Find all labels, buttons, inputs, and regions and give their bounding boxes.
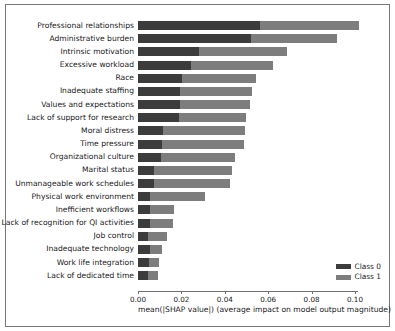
x-axis-tick	[268, 291, 269, 294]
bar-segment-class-1	[149, 258, 159, 267]
bar-segment-class-1	[150, 219, 174, 228]
y-axis-tick-label: Race	[115, 74, 134, 82]
x-axis-tick-label: 0.02	[173, 295, 189, 304]
bar-segment-class-1	[251, 34, 337, 43]
y-axis-tick-label: Lack of dedicated time	[47, 272, 134, 280]
shap-summary-figure: Professional relationshipsAdministrative…	[0, 0, 395, 331]
bar-row: Administrative burden	[138, 34, 337, 43]
y-axis-tick-label: Physical work environment	[32, 193, 134, 201]
y-axis-tick-label: Professional relationships	[37, 22, 134, 30]
y-axis-tick-label: Excessive workload	[60, 61, 134, 69]
y-axis-tick-label: Time pressure	[80, 140, 134, 148]
legend-item: Class 0	[336, 263, 382, 270]
bar-row: Organizational culture	[138, 153, 235, 162]
y-axis-tick-label: Inefficient workflows	[56, 206, 134, 214]
bar-segment-class-0	[138, 61, 191, 70]
bar-segment-class-0	[138, 21, 260, 30]
bar-segment-class-0	[138, 179, 154, 188]
bar-segment-class-0	[138, 126, 163, 135]
bar-segment-class-1	[179, 113, 245, 122]
bar-segment-class-1	[150, 245, 162, 254]
bar-row: Physical work environment	[138, 192, 205, 201]
bar-segment-class-1	[182, 74, 257, 83]
bar-segment-class-1	[180, 87, 252, 96]
bar-row: Work life integration	[138, 258, 159, 267]
bar-row: Intrinsic motivation	[138, 47, 287, 56]
x-axis-tick-label: 0.00	[130, 295, 146, 304]
bar-segment-class-1	[180, 100, 250, 109]
bar-row: Excessive workload	[138, 61, 273, 70]
x-axis-tick-label: 0.06	[260, 295, 276, 304]
bar-row: Unmanageable work schedules	[138, 179, 230, 188]
bar-segment-class-1	[199, 47, 287, 56]
bar-row: Inefficient workflows	[138, 205, 174, 214]
bar-row: Lack of support for research	[138, 113, 246, 122]
x-axis-tick-label: 0.10	[347, 295, 363, 304]
bar-segment-class-0	[138, 47, 199, 56]
bar-segment-class-0	[138, 271, 148, 280]
x-axis-tick-label: 0.04	[217, 295, 233, 304]
y-axis-tick-label: Unmanageable work schedules	[15, 180, 134, 188]
x-axis-tick	[225, 291, 226, 294]
y-axis-tick-label: Lack of recognition for QI activities	[2, 219, 134, 227]
bar-segment-class-0	[138, 74, 182, 83]
x-axis-tick	[355, 291, 356, 294]
legend-label: Class 1	[355, 273, 382, 280]
bar-row: Values and expectations	[138, 100, 250, 109]
legend-label: Class 0	[355, 263, 382, 270]
bar-segment-class-1	[148, 232, 167, 241]
legend: Class 0Class 1	[336, 263, 382, 281]
bar-segment-class-1	[191, 61, 273, 70]
bar-segment-class-1	[163, 126, 245, 135]
y-axis-tick-label: Values and expectations	[41, 101, 134, 109]
bar-segment-class-0	[138, 166, 154, 175]
bar-row: Professional relationships	[138, 21, 359, 30]
bar-segment-class-1	[260, 21, 360, 30]
y-axis-tick-label: Marital status	[82, 167, 134, 175]
legend-swatch	[336, 264, 351, 269]
y-axis-tick-label: Lack of support for research	[27, 114, 134, 122]
y-axis-tick-label: Inadequate technology	[46, 246, 134, 254]
bar-row: Inadequate technology	[138, 245, 162, 254]
x-axis-tick	[181, 291, 182, 294]
bar-segment-class-0	[138, 245, 150, 254]
bar-segment-class-0	[138, 192, 150, 201]
x-axis-line	[138, 291, 358, 292]
y-axis-tick-label: Moral distress	[81, 127, 134, 135]
bar-row: Time pressure	[138, 140, 244, 149]
bar-row: Inadequate staffing	[138, 87, 252, 96]
bar-segment-class-0	[138, 87, 180, 96]
bar-row: Moral distress	[138, 126, 245, 135]
bar-row: Lack of recognition for QI activities	[138, 219, 173, 228]
y-axis-tick-label: Job control	[94, 232, 134, 240]
y-axis-tick-label: Intrinsic motivation	[60, 48, 134, 56]
bar-segment-class-1	[150, 192, 205, 201]
bar-segment-class-0	[138, 100, 180, 109]
x-axis-tick	[138, 291, 139, 294]
bar-segment-class-0	[138, 232, 148, 241]
bar-segment-class-1	[150, 205, 174, 214]
x-axis-tick	[312, 291, 313, 294]
bar-segment-class-0	[138, 219, 150, 228]
bar-row: Race	[138, 74, 256, 83]
y-axis-tick-label: Organizational culture	[50, 153, 134, 161]
y-axis-tick-label: Work life integration	[57, 259, 134, 267]
bar-segment-class-1	[162, 140, 243, 149]
bar-segment-class-1	[154, 166, 231, 175]
bar-row: Lack of dedicated time	[138, 271, 158, 280]
x-axis-title: mean(|SHAP value|) (average impact on mo…	[138, 305, 358, 314]
y-axis-tick-label: Inadequate staffing	[60, 88, 134, 96]
bar-segment-class-0	[138, 153, 161, 162]
x-axis-tick-label: 0.08	[304, 295, 320, 304]
plot-area: Professional relationshipsAdministrative…	[138, 17, 355, 291]
bar-segment-class-1	[148, 271, 158, 280]
bar-segment-class-0	[138, 205, 150, 214]
bar-segment-class-0	[138, 113, 179, 122]
y-axis-tick-label: Administrative burden	[49, 35, 134, 43]
bar-segment-class-0	[138, 34, 251, 43]
bar-segment-class-1	[161, 153, 235, 162]
bar-segment-class-0	[138, 140, 162, 149]
bar-segment-class-1	[154, 179, 231, 188]
legend-swatch	[336, 275, 351, 280]
bar-row: Job control	[138, 232, 167, 241]
